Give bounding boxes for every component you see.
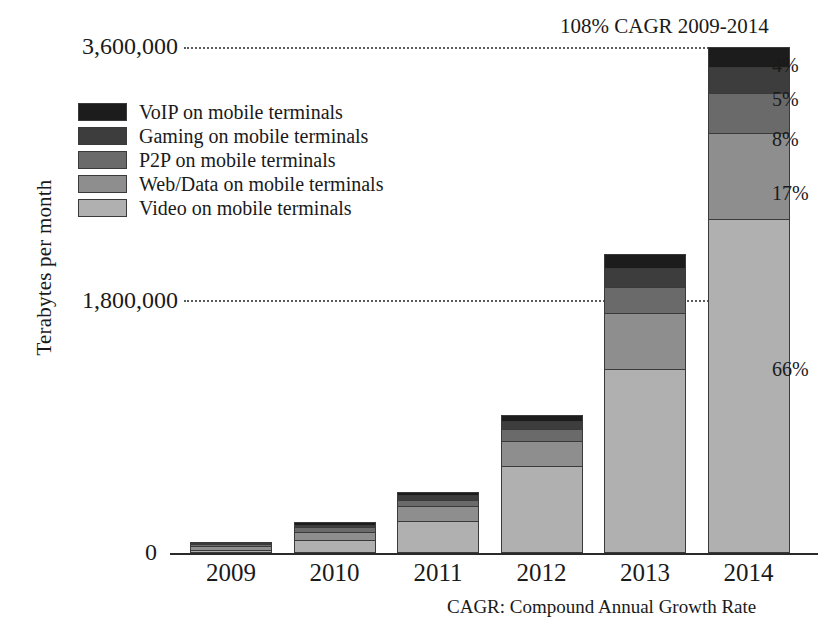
x-tick-label-2009: 2009 <box>171 559 291 587</box>
bar-segment[interactable] <box>604 254 686 269</box>
x-tick-label-2013: 2013 <box>585 559 705 587</box>
bar-2011[interactable] <box>397 492 479 554</box>
bar-2013[interactable] <box>604 254 686 553</box>
callout-p2p-8pct: 8% <box>772 128 799 151</box>
legend-swatch-icon <box>78 175 127 193</box>
callout-webdata-17pct: 17% <box>772 182 809 205</box>
x-tick-label-2014: 2014 <box>689 559 809 587</box>
legend-swatch-icon <box>78 199 127 217</box>
bar-segment[interactable] <box>501 421 583 429</box>
chart-legend: VoIP on mobile terminalsGaming on mobile… <box>78 100 383 220</box>
bar-segment[interactable] <box>294 540 376 553</box>
legend-item[interactable]: P2P on mobile terminals <box>78 148 383 172</box>
bar-segment[interactable] <box>604 369 686 553</box>
x-axis-line <box>170 553 818 555</box>
x-tick-label-2010: 2010 <box>275 559 395 587</box>
bar-segment[interactable] <box>604 287 686 313</box>
bar-2009[interactable] <box>190 542 272 553</box>
callout-voip-4pct: 4% <box>772 54 799 77</box>
bar-segment[interactable] <box>604 313 686 369</box>
chart-footnote: CAGR: Compound Annual Growth Rate <box>447 596 756 618</box>
callout-gaming-5pct: 5% <box>772 88 799 111</box>
plot-area: 200920102011201220132014 <box>0 0 827 643</box>
bar-2014[interactable] <box>708 47 790 553</box>
legend-swatch-icon <box>78 103 127 121</box>
callout-video-66pct: 66% <box>772 358 809 381</box>
chart-canvas: Terabytes per month 3,600,000 1,800,000 … <box>0 0 827 643</box>
bar-segment[interactable] <box>501 429 583 441</box>
legend-swatch-icon <box>78 127 127 145</box>
bar-segment[interactable] <box>604 268 686 286</box>
legend-item-label: P2P on mobile terminals <box>139 150 335 170</box>
legend-swatch-icon <box>78 151 127 169</box>
bar-segment[interactable] <box>501 441 583 466</box>
legend-item-label: VoIP on mobile terminals <box>139 102 343 122</box>
x-tick-label-2012: 2012 <box>482 559 602 587</box>
bar-segment[interactable] <box>397 506 479 521</box>
bar-segment[interactable] <box>294 532 376 541</box>
legend-item[interactable]: VoIP on mobile terminals <box>78 100 383 124</box>
legend-item[interactable]: Gaming on mobile terminals <box>78 124 383 148</box>
legend-item[interactable]: Video on mobile terminals <box>78 196 383 220</box>
bar-segment[interactable] <box>708 219 790 553</box>
bar-2010[interactable] <box>294 522 376 553</box>
legend-item[interactable]: Web/Data on mobile terminals <box>78 172 383 196</box>
legend-item-label: Video on mobile terminals <box>139 198 352 218</box>
bar-2012[interactable] <box>501 415 583 553</box>
x-tick-label-2011: 2011 <box>378 559 498 587</box>
legend-item-label: Web/Data on mobile terminals <box>139 174 383 194</box>
legend-item-label: Gaming on mobile terminals <box>139 126 368 146</box>
bar-segment[interactable] <box>397 521 479 553</box>
bar-segment[interactable] <box>501 466 583 553</box>
